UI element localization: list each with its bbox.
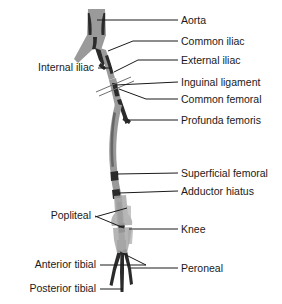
leader-external-iliac: [114, 60, 138, 72]
label-adductor-hiatus: Adductor hiatus: [181, 185, 254, 197]
label-knee: Knee: [181, 223, 206, 235]
leader-inguinal-ligament: [116, 82, 178, 85]
label-anterior-tibial: Anterior tibial: [35, 258, 96, 270]
label-common-femoral: Common femoral: [181, 93, 262, 105]
leader-common-iliac: [108, 41, 133, 51]
superficial-femoral-marker: [111, 171, 119, 181]
label-external-iliac: External iliac: [181, 54, 241, 66]
leader-common-femoral: [119, 89, 146, 99]
label-superficial-femoral: Superficial femoral: [181, 167, 268, 179]
label-inguinal-ligament: Inguinal ligament: [181, 76, 260, 88]
label-group-right: Aorta Common iliac External iliac Inguin…: [181, 14, 268, 274]
arterial-anatomy-figure: Aorta Common iliac External iliac Inguin…: [0, 0, 282, 304]
superficial-femoral-segment: [109, 104, 122, 199]
leader-adductor-hiatus: [119, 191, 178, 193]
label-profunda-femoris: Profunda femoris: [181, 114, 261, 126]
label-popliteal: Popliteal: [51, 209, 91, 221]
label-aorta: Aorta: [181, 14, 206, 26]
leader-superficial-femoral: [117, 173, 178, 174]
label-common-iliac: Common iliac: [181, 35, 245, 47]
label-peroneal: Peroneal: [181, 262, 223, 274]
aorta-segment: [87, 9, 106, 36]
label-posterior-tibial: Posterior tibial: [29, 282, 96, 294]
label-group-left: Internal iliac Popliteal Anterior tibial…: [29, 61, 96, 294]
label-internal-iliac: Internal iliac: [38, 61, 94, 73]
